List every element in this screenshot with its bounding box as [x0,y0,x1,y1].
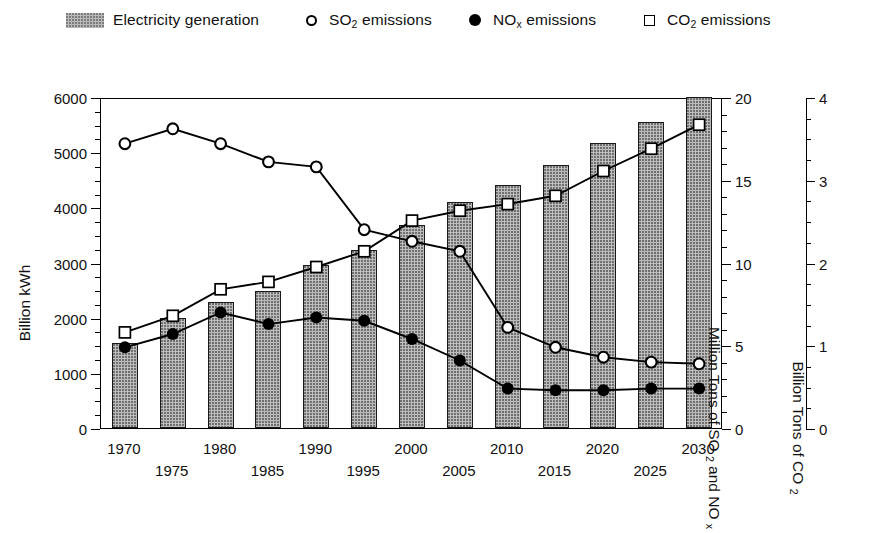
legend-item-so2: SO2 emissions [302,11,432,30]
axis-tick-label: 5 [735,338,743,355]
axis-tick [722,98,731,99]
axis-tick [806,346,815,347]
axis-tick-label: 1 [819,338,827,355]
marker-circle-open-2030 [694,358,705,369]
axis-tick [722,148,727,149]
bar-swatch-icon [66,13,104,28]
x-axis-label-2005: 2005 [442,462,475,479]
axis-tick [91,264,100,265]
marker-square-open-1985 [263,276,274,287]
axis-tick [806,98,815,99]
x-axis-label-1985: 1985 [251,462,284,479]
legend-item-nox: NOx emissions [466,11,596,30]
axis-tick [722,131,727,132]
axis-tick-label: 15 [735,172,752,189]
axis-tick [91,319,100,320]
legend-label-nox: NOx emissions [493,11,596,30]
chart-legend: Electricity generation SO2 emissions NOx… [0,0,888,40]
axis-tick [806,429,815,430]
marker-circle-filled-1990 [310,312,322,324]
marker-square-open-1975 [167,310,178,321]
axis-tick [91,98,100,99]
marker-circle-filled-2000 [406,333,418,345]
legend-item-electricity-generation: Electricity generation [66,11,259,29]
axis-tick [806,243,811,244]
y-axis-right-co2-title: Billion Tons of CO 2 [788,263,807,533]
axis-tick-label: 20 [735,90,752,107]
axis-tick-label: 1000 [54,365,87,382]
x-axis-labels: 1970197519801985199019952000200520102015… [100,429,722,492]
axis-tick-label: 4 [819,90,827,107]
axis-tick-label: 2 [819,255,827,272]
axis-tick [722,346,731,347]
axis-tick-label: 5000 [54,145,87,162]
marker-circle-filled-1995 [358,315,370,327]
axis-tick [806,139,811,140]
marker-circle-filled-2005 [454,355,466,367]
marker-square-open-2005 [454,205,465,216]
marker-circle-filled-2015 [550,384,562,396]
axis-tick [722,181,731,182]
axis-tick [91,374,100,375]
marker-circle-filled-1970 [119,341,131,353]
axis-tick [722,115,727,116]
axis-tick-label: 3000 [54,255,87,272]
x-axis-label-1980: 1980 [203,440,236,457]
axis-tick [806,264,815,265]
x-axis-label-2000: 2000 [394,440,427,457]
circle-open-icon [302,15,320,26]
axis-tick [91,429,100,430]
marker-square-open-1980 [215,284,226,295]
x-axis-label-2025: 2025 [634,462,667,479]
axis-tick [722,429,731,430]
marker-square-open-1995 [359,246,370,257]
marker-square-open-2015 [550,190,561,201]
plot-area [100,98,722,429]
x-axis-label-1990: 1990 [299,440,332,457]
marker-circle-open-1995 [359,224,370,235]
y-axis-right-so2-nox-title: Million Tons of SO 2 and NO x [704,263,723,533]
marker-circle-filled-1985 [263,318,275,330]
marker-circle-filled-1980 [215,307,227,319]
marker-circle-open-2015 [550,342,561,353]
marker-circle-open-1990 [311,162,322,173]
legend-label-electricity-generation: Electricity generation [113,11,259,29]
x-axis-label-1970: 1970 [107,440,140,457]
axis-tick-label: 0 [79,421,87,438]
y-axis-right-co2: 01234 Billion Tons of CO 2 [806,98,888,429]
x-axis-label-1995: 1995 [346,462,379,479]
axis-tick-label: 3 [819,172,827,189]
marker-square-open-2030 [694,119,705,130]
marker-circle-open-1985 [263,157,274,168]
axis-tick [722,164,727,165]
axis-tick-label: 2000 [54,310,87,327]
x-axis-label-2020: 2020 [586,440,619,457]
marker-square-open-2025 [646,143,657,154]
marker-square-open-2020 [598,166,609,177]
marker-square-open-2010 [502,199,513,210]
axis-tick [722,247,727,248]
axis-tick [806,222,811,223]
marker-circle-filled-2025 [645,383,657,395]
x-axis-label-2030: 2030 [681,440,714,457]
circle-filled-icon [466,14,484,26]
marker-square-open-1970 [119,327,130,338]
marker-circle-open-2010 [502,322,513,333]
y-axis-left: Billion kWh 0100020003000400050006000 [0,98,100,429]
axis-tick [91,208,100,209]
axis-tick [722,264,731,265]
marker-circle-open-2025 [646,357,657,368]
axis-tick-label: 0 [735,421,743,438]
marker-square-open-2000 [407,215,418,226]
x-axis-label-1975: 1975 [155,462,188,479]
square-open-icon [640,15,658,26]
axis-tick [806,160,811,161]
axis-tick [722,214,727,215]
x-axis-label-2010: 2010 [490,440,523,457]
axis-tick [806,201,811,202]
legend-label-so2: SO2 emissions [329,11,432,30]
marker-circle-open-2005 [454,246,465,257]
marker-circle-filled-2010 [502,383,514,395]
axis-tick [91,153,100,154]
